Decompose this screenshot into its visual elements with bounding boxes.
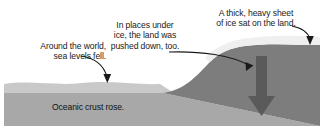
annotation-sea-levels: Around the world, sea levels fell. <box>10 41 106 62</box>
annotation-land-pushed-down: In places under ice, the land was pushed… <box>104 20 186 51</box>
label-oceanic-crust: Oceanic crust rose. <box>52 102 124 112</box>
annotation-ice-sheet: A thick, heavy sheet of ice sat on the l… <box>196 8 316 29</box>
diagram-figure: Around the world, sea levels fell. In pl… <box>0 0 326 137</box>
ocean-water-layer <box>4 82 174 93</box>
